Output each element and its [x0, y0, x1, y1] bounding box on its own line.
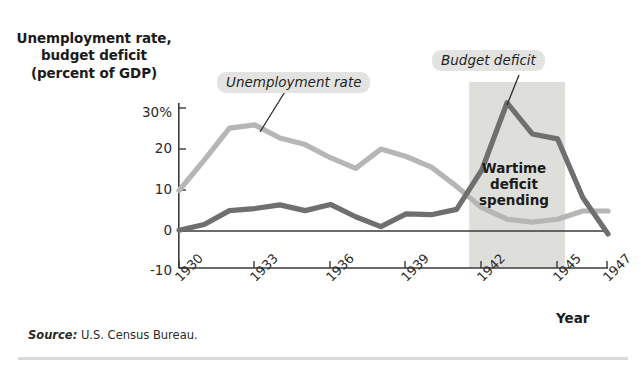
- x-tick-label-group: 1930 1933 1936 1939 1942 1945 1947: [178, 274, 618, 324]
- wartime-deficit-spending-label: Wartime deficit spending: [471, 160, 557, 209]
- callout-label-budget-deficit: Budget deficit: [432, 50, 545, 71]
- source-note: Source: U.S. Census Bureau.: [28, 328, 198, 342]
- y-tick-label: 10: [116, 183, 172, 197]
- callout-label-unemployment-rate: Unemployment rate: [217, 72, 370, 93]
- y-tick-label-group: 30% 20 10 0 -10: [114, 104, 172, 268]
- chart-figure: Unemployment rate, budget deficit (perce…: [0, 0, 641, 366]
- y-axis-title: Unemployment rate, budget deficit (perce…: [8, 30, 180, 82]
- x-axis-title: Year: [556, 310, 589, 326]
- y-tick-label: 30%: [116, 106, 172, 120]
- y-tick-label: -10: [116, 264, 172, 278]
- callout-leader-unemployment: [260, 90, 286, 132]
- source-label: Source:: [28, 328, 77, 342]
- bottom-divider: [18, 357, 628, 360]
- y-tick-label: 0: [116, 224, 172, 238]
- y-tick-label: 20: [116, 142, 172, 156]
- source-value: U.S. Census Bureau.: [77, 328, 197, 342]
